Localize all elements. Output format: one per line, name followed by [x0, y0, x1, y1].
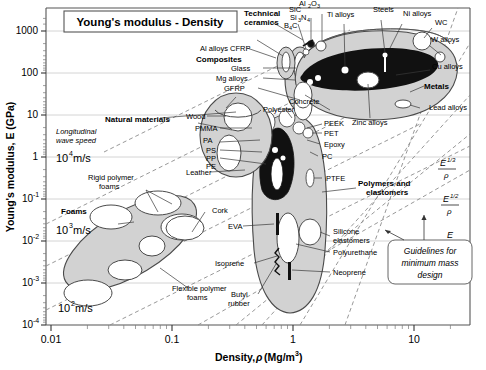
- svg-text:3: 3: [317, 3, 320, 9]
- svg-text:-1: -1: [33, 191, 39, 198]
- x-tick-1: 1: [290, 333, 296, 345]
- elastomer-bar-eva: [276, 213, 279, 235]
- label-pc: PC: [322, 152, 333, 161]
- svg-text:10: 10: [56, 224, 68, 236]
- svg-text:m/s: m/s: [73, 224, 91, 236]
- ashby-chart-root: 1000 100 10 1 10 -1 10 -2 10 -3 10 -4 0.…: [0, 0, 486, 370]
- ashby-chart-svg: 1000 100 10 1 10 -1 10 -2 10 -3 10 -4 0.…: [0, 0, 486, 370]
- label-lead-alloys: Lead alloys: [429, 103, 467, 112]
- y-tick-1000: 1000: [16, 25, 39, 36]
- label-mg-alloys: Mg alloys: [216, 74, 248, 83]
- label-w-alloys: W alloys: [431, 35, 460, 44]
- svg-text:E: E: [443, 194, 450, 204]
- svg-text:10: 10: [22, 193, 34, 204]
- elastomer-bar-neoprene: [288, 262, 291, 280]
- polymer-bubble-pe: [271, 158, 283, 190]
- ceramic-bubble-al2o3: [316, 41, 326, 51]
- svg-text:-3: -3: [33, 275, 39, 282]
- cork-bubble: [166, 216, 204, 240]
- svg-text:m/s: m/s: [75, 302, 93, 314]
- label-gfrp: GFRP: [224, 84, 245, 93]
- svg-text:E: E: [447, 230, 454, 240]
- foam-bubble-2: [90, 205, 132, 229]
- svg-text:wave speed: wave speed: [56, 136, 97, 145]
- x-tick-0-01: 0.01: [41, 333, 62, 345]
- metal-dot-al2: [315, 75, 321, 81]
- svg-text:-4: -4: [33, 317, 39, 324]
- metal-bubble-walloys: [435, 52, 445, 62]
- x-axis-title-units: (Mg/m: [264, 351, 295, 363]
- svg-text:E: E: [440, 158, 447, 168]
- y-axis-title-text: Young's modulus, E (GPa): [4, 102, 16, 233]
- label-eva: EVA: [228, 222, 242, 231]
- label-pa: PA: [203, 136, 212, 145]
- label-butyl-rubber: Butyl rubber: [228, 290, 250, 308]
- label-neoprene: Neoprene: [333, 268, 366, 277]
- label-cork: Cork: [212, 206, 228, 215]
- y-tick-10: 10: [27, 109, 39, 120]
- x-axis-title-close: ): [299, 351, 303, 363]
- label-ptfe: PTFE: [326, 174, 345, 183]
- y-tick-100: 100: [21, 67, 38, 78]
- svg-text:N: N: [301, 13, 306, 22]
- label-polyester: Polyester: [263, 105, 295, 114]
- svg-text:Guidelines for: Guidelines for: [404, 246, 458, 256]
- svg-text:1/3: 1/3: [447, 157, 456, 163]
- svg-text:m/s: m/s: [73, 152, 91, 164]
- label-epoxy: Epoxy: [324, 140, 345, 149]
- x-tick-10: 10: [408, 333, 420, 345]
- svg-text:Polymers and: Polymers and: [358, 179, 411, 188]
- polymer-dot-2: [281, 156, 286, 161]
- label-polyurethane: Polyurethane: [333, 248, 377, 257]
- label-technical-ceramics: Technical ceramics: [244, 9, 280, 27]
- label-cu-alloys: Cu alloys: [432, 62, 463, 71]
- polymer-dot-1: [272, 147, 278, 153]
- svg-text:-2: -2: [33, 233, 39, 240]
- svg-text:foams: foams: [99, 182, 120, 191]
- label-composites: Composites: [196, 55, 242, 64]
- svg-text:10: 10: [22, 319, 34, 330]
- label-wc: WC: [435, 18, 448, 27]
- foam-bubble-5: [108, 260, 142, 280]
- wave-speed-caption: Longitudinal wave speed: [56, 127, 97, 145]
- label-polymers-elastomers: Polymers and elastomers: [358, 179, 411, 197]
- label-peek: PEEK: [324, 119, 344, 128]
- label-ni-alloys: Ni alloys: [403, 9, 432, 18]
- svg-text:ceramics: ceramics: [244, 18, 279, 27]
- label-zinc-alloys: Zinc alloys: [352, 118, 388, 127]
- metal-bubble-al-inner: [282, 52, 290, 72]
- wave-speed-label-1e2: 10 2 m/s: [58, 300, 93, 314]
- label-metals: Metals: [424, 82, 449, 91]
- svg-text:Si: Si: [290, 13, 297, 22]
- x-axis-title: Density, ρ (Mg/m 3 ): [215, 350, 303, 363]
- svg-text:10: 10: [58, 302, 70, 314]
- svg-text:Al: Al: [299, 0, 306, 8]
- elastomer-bubble-silicone: [299, 219, 321, 245]
- foam-bubble-4: [139, 236, 165, 256]
- polymer-bubble-ptfe: [306, 169, 314, 187]
- metal-bar-steels: [384, 56, 386, 72]
- svg-text:Technical: Technical: [244, 9, 280, 18]
- svg-text:10: 10: [22, 235, 34, 246]
- metal-bubble-lead: [395, 100, 411, 108]
- svg-text:Butyl: Butyl: [231, 290, 248, 299]
- svg-text:foams: foams: [187, 293, 208, 302]
- label-pmma: PMMA: [195, 124, 218, 133]
- x-axis-title-name: Density,: [215, 351, 255, 363]
- title-text: Young's modulus - Density: [77, 16, 225, 28]
- svg-text:10: 10: [56, 152, 68, 164]
- svg-text:ρ: ρ: [446, 207, 452, 216]
- label-steels: Steels: [373, 5, 394, 14]
- wave-speed-label-1e3: 10 3 m/s: [56, 222, 91, 236]
- svg-text:rubber: rubber: [228, 299, 250, 308]
- metal-bubble-wc: [413, 32, 431, 50]
- x-tick-0-1: 0.1: [165, 333, 180, 345]
- svg-text:ρ: ρ: [443, 171, 449, 180]
- polymer-bubble-epoxy: [303, 128, 313, 138]
- svg-text:1/2: 1/2: [450, 193, 459, 199]
- y-axis-title: Young's modulus, E (GPa): [4, 102, 16, 233]
- svg-text:elastomers: elastomers: [366, 188, 409, 197]
- svg-text:minimum mass: minimum mass: [401, 258, 459, 268]
- ceramic-bubble-b4c: [303, 49, 309, 55]
- svg-text:10: 10: [22, 277, 34, 288]
